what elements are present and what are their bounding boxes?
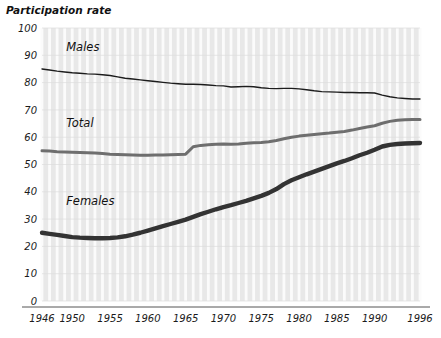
y-tick-label: 70 [24,105,37,116]
series-label-females: Females [66,194,114,208]
x-tick-label: 1970 [211,313,236,324]
x-tick-label: 1990 [362,313,387,324]
y-tick-label: 30 [24,214,37,225]
series-label-total: Total [66,116,94,130]
x-tick-label: 1985 [324,313,349,324]
series-label-males: Males [66,40,99,54]
participation-rate-chart: Participation rate 010203040506070809010… [0,0,441,338]
y-tick-label: 90 [24,50,37,61]
y-tick-label: 80 [24,77,37,88]
x-tick-label: 1955 [97,313,122,324]
x-tick-label: 1960 [135,313,160,324]
y-tick-label: 10 [24,268,37,279]
x-tick-label: 1996 [407,313,432,324]
x-tick-label: 1965 [173,313,198,324]
x-tick-label: 1950 [60,313,85,324]
x-tick-label: 1946 [29,313,54,324]
x-axis-tick-labels: 1946195019551960196519701975198019851990… [29,313,432,324]
y-tick-label: 40 [24,186,37,197]
y-tick-label: 20 [24,241,37,252]
y-tick-label: 60 [24,132,37,143]
y-tick-label: 0 [31,296,37,307]
x-tick-label: 1975 [249,313,274,324]
y-tick-label: 50 [24,159,37,170]
y-tick-label: 100 [18,23,37,34]
y-axis-tick-labels: 0102030405060708090100 [18,23,37,307]
chart-plot-area: 0102030405060708090100 19461950195519601… [0,0,441,338]
x-tick-label: 1980 [286,313,311,324]
